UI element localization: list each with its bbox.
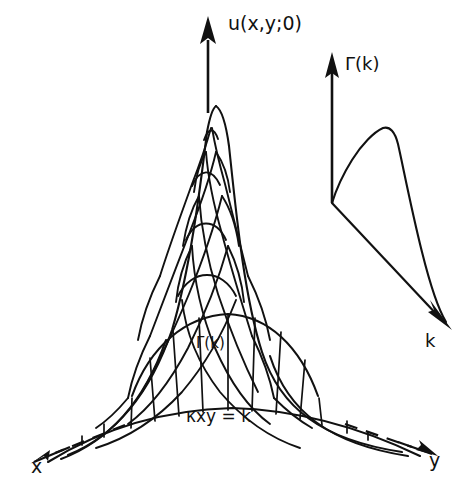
base-curve-equation-label: κxy = k bbox=[186, 408, 251, 425]
inset-k-axis-label: k bbox=[425, 332, 435, 350]
mesh-arc-14 bbox=[252, 336, 274, 398]
figure-root: u(x,y;0) Γ(k) k Γ(k) κxy = k x y bbox=[0, 0, 470, 492]
u-axis-arrowhead bbox=[200, 16, 216, 44]
curtain-rule-7 bbox=[252, 318, 255, 411]
mesh-arcs bbox=[96, 130, 312, 428]
x-axis-label: x bbox=[31, 457, 42, 476]
inset-plot bbox=[325, 52, 452, 330]
mesh-arc-8 bbox=[178, 275, 236, 296]
inset-gamma-curve bbox=[332, 128, 446, 322]
y-axis-label: y bbox=[429, 451, 440, 470]
u-axis bbox=[200, 16, 216, 113]
curtain-rule-2 bbox=[131, 398, 132, 428]
surface-right-edge bbox=[216, 106, 402, 452]
mesh-arc-11 bbox=[138, 276, 160, 340]
inset-vertical-axis-label: Γ(k) bbox=[345, 55, 380, 73]
mesh-arc-15 bbox=[96, 398, 128, 428]
mesh-right-curve-2 bbox=[206, 152, 252, 336]
inset-k-axis-arrowhead bbox=[428, 300, 452, 330]
u-axis-label: u(x,y;0) bbox=[228, 14, 302, 33]
curtain-region-label: Γ(k) bbox=[196, 336, 225, 351]
